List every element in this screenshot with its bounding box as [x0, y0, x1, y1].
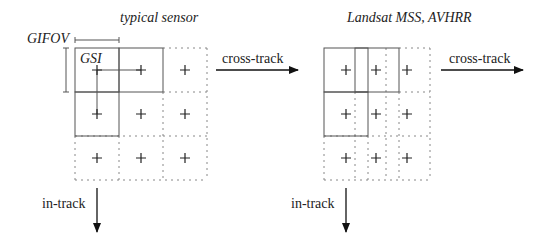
right-in-track-label: in-track	[291, 196, 335, 212]
right-pixel-grid	[324, 48, 430, 180]
gsi-label: GSI	[80, 51, 102, 67]
left-in-track-label: in-track	[42, 196, 86, 212]
left-cross-track-label: cross-track	[222, 51, 283, 67]
left-panel-title: typical sensor	[120, 10, 198, 26]
right-panel-title: Landsat MSS, AVHRR	[347, 10, 472, 26]
gifov-label: GIFOV	[27, 31, 69, 47]
right-cross-track-label: cross-track	[449, 51, 510, 67]
